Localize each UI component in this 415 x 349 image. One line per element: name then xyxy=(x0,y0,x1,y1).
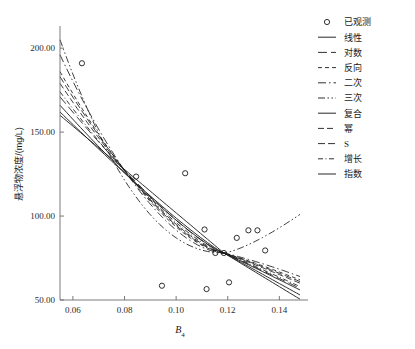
y-tick-label: 50.00 xyxy=(35,295,56,305)
y-tick-label: 200.00 xyxy=(30,43,55,53)
chart-figure: 0.060.080.100.120.1450.00100.00150.00200… xyxy=(0,0,415,349)
legend-label: 线性 xyxy=(344,32,362,43)
legend-label: 反向 xyxy=(344,62,362,73)
y-tick-label: 150.00 xyxy=(30,127,55,137)
legend-label: 二次 xyxy=(344,77,362,88)
curve-estimation-chart: 0.060.080.100.120.1450.00100.00150.00200… xyxy=(0,0,415,349)
y-axis-title-text: 悬浮物浓度/(mg/L) xyxy=(13,127,24,201)
y-axis-title: 悬浮物浓度/(mg/L) xyxy=(13,127,24,201)
legend-label: S xyxy=(344,139,349,149)
y-tick-label: 100.00 xyxy=(30,211,55,221)
x-tick-label: 0.10 xyxy=(168,305,184,315)
legend-label: 幂 xyxy=(344,124,353,134)
x-tick-label: 0.06 xyxy=(65,305,81,315)
legend-label: 三次 xyxy=(344,92,362,103)
legend-label: 指数 xyxy=(344,168,362,179)
legend-label: 增长 xyxy=(344,153,362,164)
legend-label: 复合 xyxy=(344,108,362,119)
x-tick-label: 0.12 xyxy=(220,305,236,315)
legend-label: 对数 xyxy=(344,47,362,58)
legend-label: 已观测 xyxy=(344,17,371,27)
x-tick-label: 0.08 xyxy=(117,305,133,315)
x-tick-label: 0.14 xyxy=(271,305,287,315)
